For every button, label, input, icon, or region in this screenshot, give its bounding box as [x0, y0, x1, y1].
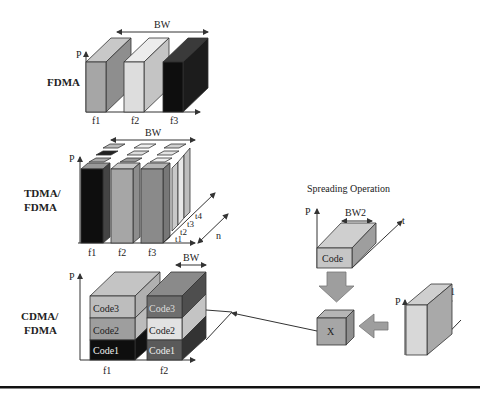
fdma-f2: f2 — [131, 115, 139, 126]
fdma-f3: f3 — [170, 115, 178, 126]
tdma-bw-label: BW — [145, 127, 162, 138]
tdma-n-arrow — [198, 214, 228, 243]
cdma-f1: f1 — [103, 365, 111, 376]
cdma-f2: f2 — [160, 365, 168, 376]
spreading-output-line — [232, 313, 317, 331]
multiplier-cube: X — [317, 310, 354, 345]
cdma-f1-code1: Code1 — [93, 345, 119, 356]
spreading-t-label: t — [402, 215, 405, 226]
cdma-label-line2: FDMA — [24, 324, 57, 336]
tdma-n-label: n — [216, 230, 221, 241]
tdma-block-f1 — [81, 163, 110, 243]
tdma-section: TDMA/ FDMA P BW — [24, 127, 228, 258]
signal-block — [406, 305, 427, 355]
signal-p-label: P — [395, 296, 401, 307]
fdma-f1: f1 — [92, 115, 100, 126]
cdma-f1-code3: Code3 — [93, 303, 119, 314]
code-block: Code — [317, 223, 376, 268]
fdma-label: FDMA — [47, 76, 80, 88]
tdma-label-line1: TDMA/ — [24, 187, 62, 199]
tdma-f1: f1 — [88, 247, 96, 258]
fdma-section: FDMA P BW f1 f2 f3 — [47, 19, 208, 126]
tdma-block-f3 — [141, 163, 170, 243]
cdma-f2-code3: Code3 — [149, 303, 175, 314]
cdma-f1-code2: Code2 — [93, 325, 119, 336]
cdma-section: CDMA/ FDMA P BW Code3 Code2 Code1 — [21, 252, 232, 376]
tdma-label-line2: FDMA — [24, 201, 57, 213]
tdma-f2: f2 — [118, 247, 126, 258]
spreading-p-label: P — [305, 206, 311, 217]
tdma-block-f2 — [111, 163, 140, 243]
spreading-section: Spreading Operation P t BW2 Code X — [232, 183, 405, 345]
fdma-bw-label: BW — [154, 19, 171, 30]
cdma-bw-label: BW — [183, 252, 200, 263]
tdma-t4: t4 — [195, 211, 203, 221]
fdma-p-label: P — [76, 49, 82, 60]
multiplier-label: X — [327, 326, 335, 337]
fdma-block-f3 — [163, 38, 208, 112]
tdma-t2: t2 — [180, 227, 187, 237]
cdma-bracket-top — [206, 310, 232, 312]
tdma-t3: t3 — [187, 219, 195, 229]
cdma-bracket-bottom — [206, 312, 232, 340]
multiple-access-diagram: FDMA P BW f1 f2 f3 TDMA/ FDMA — [0, 0, 480, 398]
code-block-label: Code — [322, 253, 344, 264]
spreading-bw2-label: BW2 — [345, 207, 366, 218]
bottom-rule — [0, 386, 480, 389]
signal-section: P BW1 — [395, 284, 461, 355]
cdma-f2-code1: Code1 — [149, 345, 175, 356]
down-arrow-icon — [319, 272, 354, 302]
cdma-p-label: P — [69, 271, 75, 282]
tdma-p-label: P — [69, 153, 75, 164]
tdma-f3: f3 — [148, 247, 156, 258]
spreading-title: Spreading Operation — [307, 183, 390, 194]
cdma-f2-code2: Code2 — [149, 325, 175, 336]
cdma-label-line1: CDMA/ — [21, 310, 59, 322]
left-arrow-icon — [359, 314, 388, 338]
